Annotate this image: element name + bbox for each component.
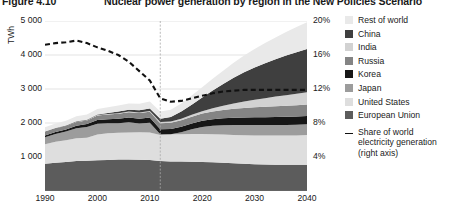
legend-item: United States [345,96,454,110]
y-axis-left-tick: 3 000 [1,83,45,93]
x-axis-tick: 1990 [25,193,65,203]
legend: Rest of worldChinaIndiaRussiaKoreaJapanU… [345,14,454,158]
legend-item: Russia [345,55,454,69]
legend-share-line-label-2: electricity generation [358,137,437,147]
y-axis-left-tick: 5 000 [1,15,45,25]
legend-item: Korea [345,68,454,82]
legend-item: China [345,28,454,42]
y-axis-right-tick: 8% [313,117,347,127]
legend-item: Japan [345,82,454,96]
legend-item-label: Russia [358,55,384,67]
legend-share-line-label-1: Share of world [358,127,413,137]
legend-item-label: India [358,41,377,53]
x-axis: 199020002010202020302040 [0,193,330,213]
y-axis-left-tick: 2 000 [1,117,45,127]
y-axis-right-tick: 16% [313,49,347,59]
legend-item-share-line: Share of world electricity generation (r… [345,127,454,159]
y-axis-left: 5 0004 0003 0002 0001 000 [0,0,45,216]
figure-container: Figure 4.10 Nuclear power generation by … [0,0,454,216]
y-axis-right: 20%16%12%8%4% [307,0,347,216]
x-axis-tick: 2030 [235,193,275,203]
y-axis-right-tick: 12% [313,83,347,93]
legend-swatch-icon [345,70,353,78]
legend-items: Rest of worldChinaIndiaRussiaKoreaJapanU… [345,14,454,123]
stacked-area-series [45,22,307,191]
area-chart-svg [45,21,307,191]
legend-item: Rest of world [345,14,454,28]
legend-swatch-icon [345,16,353,24]
y-axis-left-tick: 1 000 [1,151,45,161]
y-axis-right-tick: 4% [313,151,347,161]
dashed-line-icon [345,129,353,137]
legend-item: European Union [345,109,454,123]
legend-item-label: European Union [358,109,420,121]
legend-swatch-icon [345,98,353,106]
legend-item-label: Korea [358,68,381,80]
x-axis-tick: 2010 [130,193,170,203]
x-axis-tick: 2040 [287,193,327,203]
x-axis-tick: 2020 [182,193,222,203]
legend-swatch-icon [345,84,353,92]
legend-item-label: United States [358,96,410,108]
legend-item-label: Japan [358,82,381,94]
legend-swatch-icon [345,43,353,51]
x-axis-tick: 2000 [77,193,117,203]
legend-swatch-icon [345,111,353,119]
legend-swatch-icon [345,30,353,38]
legend-item: India [345,41,454,55]
legend-share-line-label-3: (right axis) [358,148,398,158]
page-title: Nuclear power generation by region in th… [104,0,422,7]
plot-area [45,21,307,191]
legend-item-label: Rest of world [358,14,408,26]
figure-title-bar: Figure 4.10 Nuclear power generation by … [0,0,454,9]
y-axis-left-tick: 4 000 [1,49,45,59]
legend-swatch-icon [345,57,353,65]
y-axis-right-tick: 20% [313,15,347,25]
legend-item-label: China [358,28,380,40]
legend-share-line-label: Share of world electricity generation (r… [358,127,437,159]
